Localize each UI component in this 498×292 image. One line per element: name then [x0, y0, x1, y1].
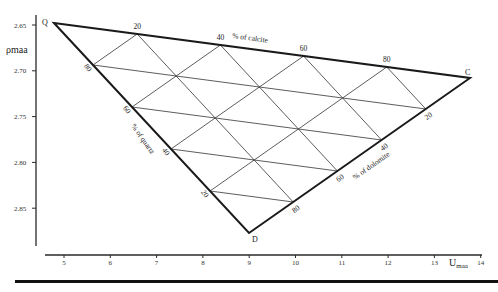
- x-tick-label: 9: [247, 259, 251, 267]
- vertex-label-q: Q: [42, 18, 48, 27]
- x-tick-label: 7: [155, 259, 159, 267]
- x-tick-label: 12: [385, 259, 393, 267]
- vertex-label-c: C: [465, 68, 470, 77]
- dolomite-edge-title: % of dolomite: [351, 149, 392, 181]
- grid-line-quartz: [132, 45, 220, 107]
- grid-line-quartz: [171, 56, 304, 149]
- dolomite-tick-label: 20: [423, 110, 435, 122]
- dolomite-tick-label: 60: [334, 172, 346, 184]
- grid-line-dolomite: [132, 107, 382, 140]
- x-tick-label: 5: [62, 259, 66, 267]
- calcite-tick-label: 40: [217, 33, 225, 42]
- dolomite-tick-label: 80: [290, 203, 302, 215]
- x-axis-label-sub: maa: [456, 262, 469, 270]
- vertex-label-d: D: [252, 235, 258, 244]
- x-tick-label: 13: [431, 259, 439, 267]
- calcite-tick-label: 80: [383, 55, 391, 64]
- y-tick-label: 2.80: [14, 159, 27, 167]
- x-tick-label: 6: [109, 259, 113, 267]
- x-tick-label: 14: [477, 259, 485, 267]
- calcite-tick-label: 60: [300, 44, 308, 53]
- calcite-edge-title: % of calcite: [232, 31, 269, 45]
- x-tick-label: 10: [292, 259, 300, 267]
- x-tick-label: 8: [201, 259, 205, 267]
- ternary-diagram: 2.652.702.752.802.85 ρmaa 56789101112131…: [0, 0, 498, 292]
- y-tick-label: 2.75: [14, 113, 27, 121]
- grid-line-dolomite: [210, 191, 293, 202]
- ternary-triangle: [54, 23, 470, 233]
- x-tick-label: 11: [338, 259, 345, 267]
- y-tick-label: 2.65: [14, 22, 27, 30]
- y-tick-label: 2.85: [14, 205, 27, 213]
- x-axis-label: Umaa: [449, 257, 469, 270]
- grid-line-quartz: [93, 34, 137, 65]
- grid-line-calcite: [220, 45, 337, 171]
- calcite-tick-label: 20: [133, 22, 141, 31]
- grid-line-calcite: [387, 67, 426, 109]
- bottom-rule: [15, 280, 498, 283]
- quartz-edge-title: % of quartz: [129, 122, 157, 156]
- x-axis-ticks: 567891011121314: [62, 255, 484, 267]
- y-tick-label: 2.70: [14, 67, 27, 75]
- y-axis-label: ρmaa: [6, 44, 28, 55]
